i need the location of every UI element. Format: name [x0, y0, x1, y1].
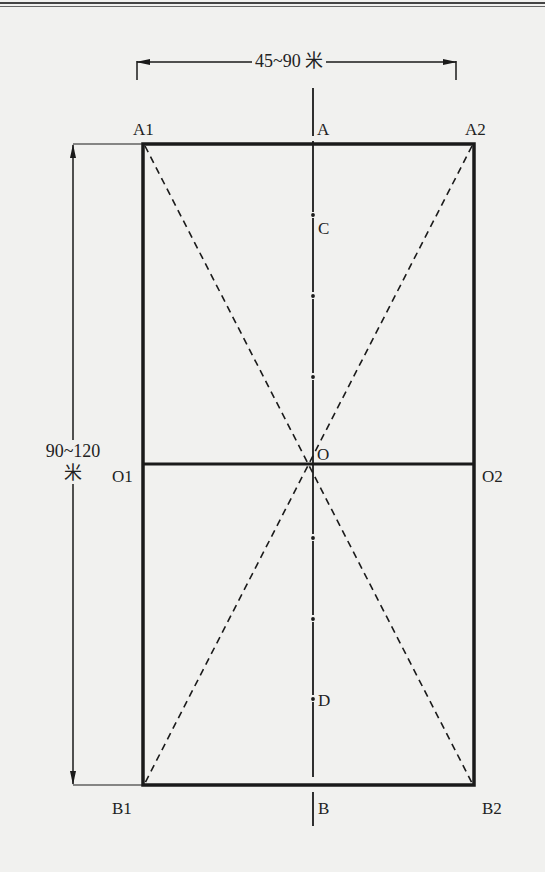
height-dimension-label: 90~120 米 [38, 440, 108, 484]
point-label-a2: A2 [465, 121, 486, 138]
width-dimension-label: 45~90 米 [252, 52, 326, 70]
point-label-b2: B2 [482, 800, 502, 817]
point-label-o1: O1 [112, 468, 133, 485]
point-label-b: B [318, 800, 329, 817]
point-label-b1: B1 [112, 800, 132, 817]
height-dimension-value: 90~120 [38, 440, 108, 462]
center-line [312, 88, 314, 826]
point-label-c: C [318, 220, 329, 237]
height-dimension-unit: 米 [38, 462, 108, 484]
point-label-d: D [318, 692, 330, 709]
point-label-a: A [317, 121, 329, 138]
point-label-o: O [317, 446, 329, 463]
point-label-a1: A1 [133, 121, 154, 138]
point-label-o2: O2 [482, 468, 503, 485]
field-diagram [0, 0, 545, 872]
